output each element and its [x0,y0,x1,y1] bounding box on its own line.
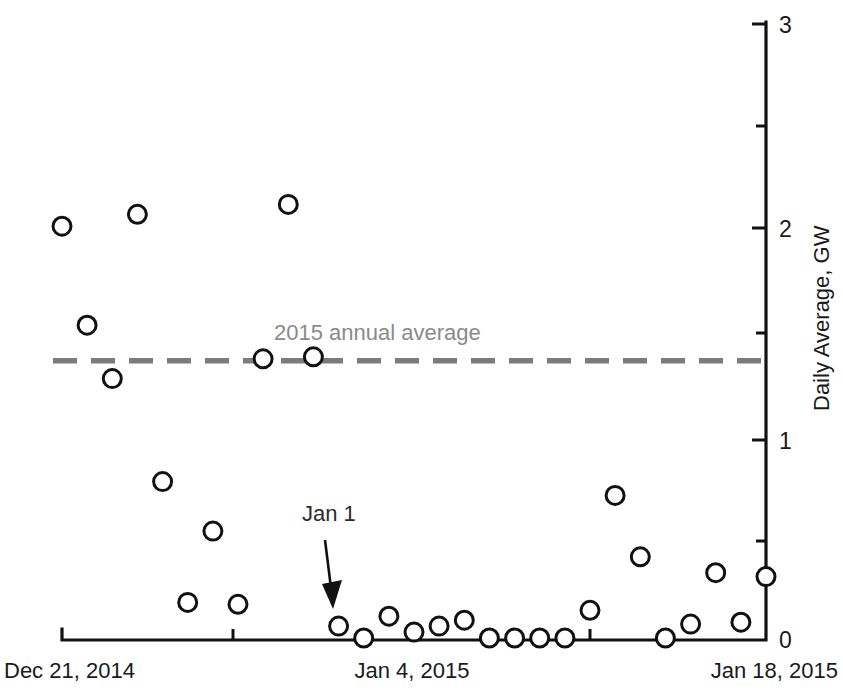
data-point [455,611,473,629]
x-axis-start-label: Dec 21, 2014 [4,658,135,683]
jan1-arrow-shaft [325,540,331,588]
data-point [154,473,172,491]
x-axis-mid-label: Jan 4, 2015 [355,658,470,683]
annual-average-label: 2015 annual average [274,320,481,345]
y-axis-title: Daily Average, GW [809,225,834,411]
y-tick-label-3: 3 [779,12,792,38]
data-point [204,522,222,540]
data-point [606,486,624,504]
data-point [103,370,121,388]
data-point [279,195,297,213]
data-points-layer [53,195,775,647]
data-point [304,348,322,366]
data-point [53,217,71,235]
data-point [380,607,398,625]
scatter-plot: 3 2 1 0 Dec 21, 2014 Jan 4, 2015 Jan 18,… [0,0,843,690]
jan1-arrow-head [322,580,342,609]
data-point [179,593,197,611]
data-point [707,564,725,582]
data-point [430,617,448,635]
data-point [556,629,574,647]
data-point [656,629,674,647]
data-point [128,205,146,223]
data-point [355,629,373,647]
data-point [405,623,423,641]
data-point [631,548,649,566]
jan1-annotation-label: Jan 1 [302,501,356,526]
data-point [480,629,498,647]
y-tick-label-0: 0 [779,627,792,653]
data-point [78,316,96,334]
data-point [330,617,348,635]
data-point [757,568,775,586]
y-tick-label-2: 2 [779,216,792,242]
data-point [581,601,599,619]
data-point [506,629,524,647]
chart-container: 3 2 1 0 Dec 21, 2014 Jan 4, 2015 Jan 18,… [0,0,843,690]
data-point [531,629,549,647]
data-point [254,350,272,368]
x-axis-end-label: Jan 18, 2015 [711,658,838,683]
y-tick-label-1: 1 [779,428,792,454]
data-point [682,615,700,633]
data-point [732,613,750,631]
data-point [229,595,247,613]
